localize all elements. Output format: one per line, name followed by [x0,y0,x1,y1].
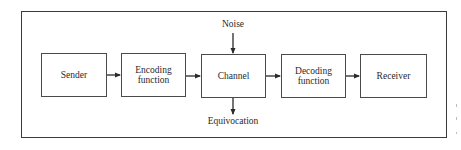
arrows-layer [0,0,461,150]
scan-edge-marks [455,100,458,140]
